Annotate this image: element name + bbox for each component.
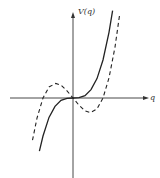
dashed-curve	[33, 16, 120, 141]
plot-area	[0, 0, 160, 178]
solid-curve	[39, 11, 112, 152]
y-axis-label: V(q)	[78, 8, 95, 16]
y-axis-arrow-icon	[71, 12, 75, 18]
x-axis-arrow-icon	[143, 96, 149, 100]
x-axis-label: q	[150, 94, 155, 102]
